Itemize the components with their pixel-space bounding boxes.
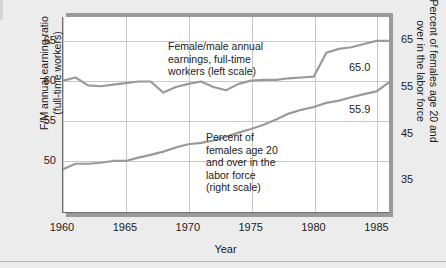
- plot-area: Female/male annual earnings, full-time w…: [62, 17, 389, 213]
- x-axis-title: Year: [62, 243, 389, 255]
- right-axis-title: Percent of females age 20 and over in th…: [414, 0, 440, 146]
- x-axis-tick-label: 1980: [294, 221, 334, 233]
- x-axis-tick-label: 1960: [42, 221, 82, 233]
- x-axis-tick-label: 1985: [356, 221, 396, 233]
- value-label-labor-force: 55.9: [349, 103, 370, 115]
- chart-figure: Female/male annual earnings, full-time w…: [0, 0, 446, 268]
- value-label-earnings-ratio: 65.0: [349, 61, 370, 73]
- page-edge-mark-left: [0, 0, 3, 20]
- x-axis-tick-label: 1975: [231, 221, 271, 233]
- earnings-annotation: Female/male annual earnings, full-time w…: [168, 40, 263, 78]
- x-axis-tick-label: 1970: [168, 221, 208, 233]
- right-axis-tick-label: 35: [401, 173, 431, 185]
- page-edge-rule-bottom: [0, 261, 446, 262]
- left-axis-tick-label: 50: [26, 154, 56, 166]
- x-axis-tick-label: 1965: [105, 221, 145, 233]
- left-axis-title: F/M annual earning ratio (full-time work…: [38, 0, 64, 148]
- labor-force-annotation: Percent of females age 20 and over in th…: [206, 131, 278, 194]
